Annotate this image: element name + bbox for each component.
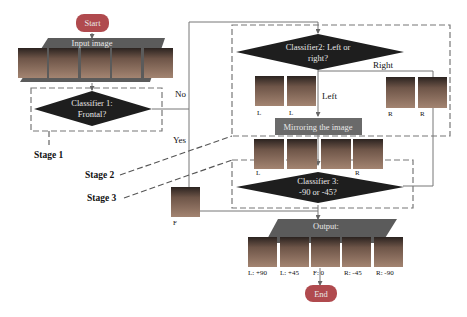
face-tag: F xyxy=(173,219,177,227)
start-label: Start xyxy=(84,18,101,28)
face-image xyxy=(311,237,340,267)
output-tag: F: 0 xyxy=(313,269,325,277)
classifier3-line1: Classifier 3: xyxy=(297,176,338,186)
face-image xyxy=(144,48,173,78)
end-terminal: End xyxy=(305,285,337,302)
edge-label-left: Left xyxy=(322,91,337,101)
face-image xyxy=(353,139,383,169)
face-image xyxy=(386,77,415,108)
face-image xyxy=(18,48,47,78)
stage-pointers xyxy=(49,131,232,198)
face-image xyxy=(254,139,284,169)
input-label: Input image xyxy=(72,38,113,48)
end-label: End xyxy=(314,289,328,299)
mirror-box: Mirroring the image xyxy=(275,118,362,135)
stage2-label: Stage 2 xyxy=(85,170,115,180)
classifier2-line1: Classifier2: Left or xyxy=(286,42,351,52)
mirror-label: Mirroring the image xyxy=(284,122,353,132)
input-faces xyxy=(18,48,173,78)
face-tag: L xyxy=(257,109,261,117)
edge-label-yes: Yes xyxy=(173,135,187,145)
face-image xyxy=(171,187,200,217)
output-tag: L: +90 xyxy=(248,269,267,277)
output-tag: R: -45 xyxy=(344,269,362,277)
face-image xyxy=(418,77,447,108)
output-tag: R: -90 xyxy=(376,269,394,277)
face-image xyxy=(280,237,309,267)
face-image xyxy=(287,76,316,106)
face-image xyxy=(342,237,371,267)
classifier1-line1: Classifier 1: xyxy=(71,98,112,108)
left-faces: L L xyxy=(255,76,316,117)
face-image xyxy=(81,48,110,78)
face-image xyxy=(321,139,351,169)
face-image xyxy=(248,237,277,267)
frontal-face: F xyxy=(171,187,200,227)
flowchart: Start Input image Classifier 1: Frontal?… xyxy=(0,0,467,317)
output-tag: L: +45 xyxy=(280,269,299,277)
classifier2-line2: right? xyxy=(308,53,328,63)
stage1-label: Stage 1 xyxy=(34,150,64,160)
start-terminal: Start xyxy=(76,14,109,32)
face-tag: R xyxy=(355,169,360,177)
face-image xyxy=(112,48,141,78)
face-image xyxy=(287,139,317,169)
face-tag: L xyxy=(256,169,260,177)
face-image xyxy=(374,237,403,267)
right-faces: R R xyxy=(386,77,447,118)
classifier1-line2: Frontal? xyxy=(78,109,107,119)
face-image xyxy=(255,76,284,106)
classifier3-line2: -90 or -45? xyxy=(299,187,337,197)
output-label: Output: xyxy=(313,221,339,231)
face-image xyxy=(49,48,78,78)
face-tag: L xyxy=(289,109,293,117)
output-faces: L: +90 L: +45 F: 0 R: -45 R: -90 xyxy=(248,237,403,277)
face-tag: R xyxy=(420,110,425,118)
face-tag: R xyxy=(388,110,393,118)
edge-label-right: Right xyxy=(373,60,394,70)
classifier1-diamond: Classifier 1: Frontal? xyxy=(34,91,152,126)
classifier3-diamond: Classifier 3: -90 or -45? xyxy=(236,172,404,203)
stage3-label: Stage 3 xyxy=(87,193,117,203)
edge-label-no: No xyxy=(175,89,186,99)
